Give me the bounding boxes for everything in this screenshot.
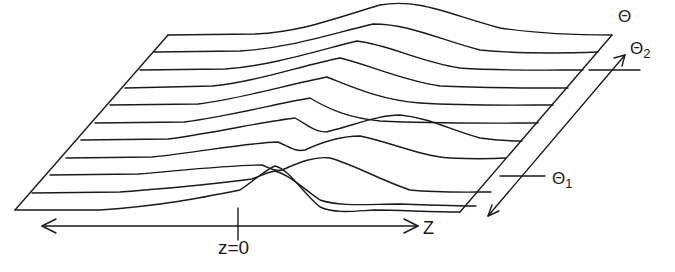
profile-curve-5 [110, 77, 553, 105]
profile-curve-7 [81, 115, 522, 141]
theta-axis-label: Θ [618, 8, 631, 25]
profile-curve-6 [95, 98, 538, 123]
theta1-symbol: Θ [552, 169, 565, 188]
waterfall-diagram [0, 0, 675, 272]
profile-curve-1 [168, 3, 612, 35]
z-origin-label: z=0 [218, 238, 249, 257]
profile-curve-4 [125, 58, 568, 88]
profile-curve-10 [32, 171, 476, 206]
theta-axis-line [488, 55, 625, 216]
theta1-label: Θ1 [552, 170, 572, 190]
z-axis-label: Z [423, 219, 434, 237]
theta2-symbol: Θ [630, 39, 643, 58]
profile-curve-2 [154, 24, 598, 53]
profile-curve-9 [50, 158, 491, 193]
theta2-label: Θ2 [630, 40, 650, 60]
theta1-subscript: 1 [565, 176, 572, 191]
theta2-subscript: 2 [643, 46, 650, 61]
profile-curve-3 [140, 41, 583, 70]
profile-curve-11 [15, 166, 460, 212]
